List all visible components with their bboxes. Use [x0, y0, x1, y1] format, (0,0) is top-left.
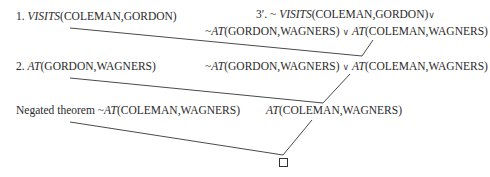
edge-clause2-to-resolvent2 [70, 78, 323, 103]
edge-resolvent2-to-empty [283, 120, 312, 155]
clause-3prime-line2: ~AT(GORDON,WAGNERS) ∨ AT(COLEMAN,WAGNERS… [205, 25, 488, 39]
clause-2: 2. AT(GORDON,WAGNERS) [16, 60, 156, 73]
or-symbol: ∨ [342, 62, 349, 72]
clause-3prime-label: 3′. [256, 8, 267, 20]
clause-1: 1. VISITS(COLEMAN,GORDON) [16, 10, 177, 23]
negation-symbol: ~ [270, 8, 276, 20]
clause-3prime-predicate-at1: AT [211, 25, 224, 37]
clause-2-args: (GORDON,WAGNERS) [41, 60, 156, 72]
resolvent-1-args2: (COLEMAN,WAGNERS) [365, 60, 488, 72]
edge-negated-theorem-to-empty [70, 122, 283, 155]
resolvent-1: ~AT(GORDON,WAGNERS) ∨ AT(COLEMAN,WAGNERS… [205, 60, 488, 74]
clause-3prime-args-at2: (COLEMAN,WAGNERS) [365, 25, 488, 37]
or-symbol: ∨ [428, 10, 435, 20]
resolvent-1-predicate2: AT [352, 60, 365, 72]
resolvent-2: AT(COLEMAN,WAGNERS) [266, 104, 402, 117]
edge-clause3prime-to-resolvent1 [362, 40, 373, 56]
clause-2-predicate: AT [28, 60, 41, 72]
negated-theorem-predicate: AT [104, 104, 117, 116]
clause-3prime-predicate-at2: AT [352, 25, 365, 37]
clause-3prime-line1: 3′. ~ VISITS(COLEMAN,GORDON)∨ [256, 8, 435, 22]
resolvent-2-args: (COLEMAN,WAGNERS) [279, 104, 402, 116]
resolvent-2-predicate: AT [266, 104, 279, 116]
or-symbol: ∨ [342, 27, 349, 37]
negated-theorem-args: (COLEMAN,WAGNERS) [117, 104, 240, 116]
clause-3prime-predicate-visits: VISITS [279, 8, 312, 20]
resolvent-1-args1: (GORDON,WAGNERS) [224, 60, 339, 72]
edge-resolvent1-to-resolvent2 [323, 74, 350, 103]
negated-theorem-label: Negated theorem [16, 104, 95, 116]
clause-3prime-args-visits: (COLEMAN,GORDON) [312, 8, 429, 20]
empty-clause-box [279, 158, 288, 167]
resolvent-1-predicate1: AT [211, 60, 224, 72]
clause-1-predicate: VISITS [28, 10, 61, 22]
negated-theorem: Negated theorem ~AT(COLEMAN,WAGNERS) [16, 104, 240, 117]
clause-1-label: 1. [16, 10, 25, 22]
clause-2-label: 2. [16, 60, 25, 72]
clause-1-args: (COLEMAN,GORDON) [60, 10, 177, 22]
clause-3prime-args-at1: (GORDON,WAGNERS) [224, 25, 339, 37]
